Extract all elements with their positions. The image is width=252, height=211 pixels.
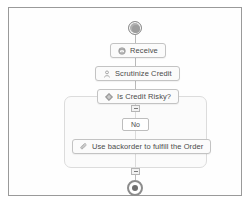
- node-is-credit-risky[interactable]: Is Credit Risky?: [97, 89, 179, 104]
- collapse-marker-bottom[interactable]: [131, 168, 140, 175]
- connector-start-to-receive: [135, 35, 136, 43]
- user-task-icon: [103, 70, 111, 78]
- start-event[interactable]: [128, 21, 142, 35]
- node-receive-label: Receive: [130, 47, 158, 55]
- diagram-frame: Receive Scrutinize Credit Is Credit Risk…: [8, 7, 242, 196]
- node-scrutinize-credit-label: Scrutinize Credit: [115, 70, 172, 78]
- connector-receive-to-scrutinize: [135, 58, 136, 66]
- message-receive-icon: [118, 47, 126, 55]
- start-event-inner: [132, 25, 140, 33]
- diagram-canvas: Receive Scrutinize Credit Is Credit Risk…: [0, 0, 252, 211]
- collapse-marker-top[interactable]: [131, 105, 140, 112]
- paperclip-icon: [80, 143, 88, 151]
- gateway-diamond-icon: [105, 93, 113, 101]
- branch-condition-label[interactable]: No: [122, 118, 149, 131]
- node-is-credit-risky-label: Is Credit Risky?: [117, 93, 171, 101]
- connector-scrutinize-to-decision: [135, 81, 136, 89]
- node-use-backorder[interactable]: Use backorder to fulfill the Order: [72, 139, 211, 154]
- end-event-inner: [132, 185, 138, 191]
- node-scrutinize-credit[interactable]: Scrutinize Credit: [95, 66, 180, 81]
- node-use-backorder-label: Use backorder to fulfill the Order: [92, 143, 203, 151]
- end-event[interactable]: [127, 180, 143, 196]
- node-receive[interactable]: Receive: [110, 43, 166, 58]
